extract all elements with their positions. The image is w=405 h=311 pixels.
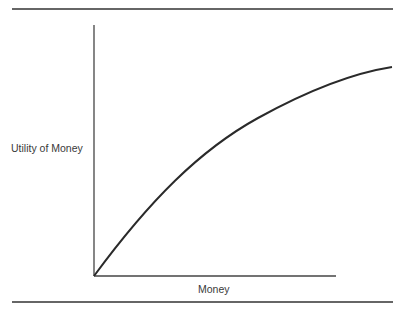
utility-curve <box>94 67 392 276</box>
x-axis-label: Money <box>198 283 230 295</box>
y-axis-label: Utility of Money <box>11 142 83 154</box>
utility-diagram: Utility of Money Money <box>0 0 405 311</box>
diagram-canvas <box>0 0 405 311</box>
